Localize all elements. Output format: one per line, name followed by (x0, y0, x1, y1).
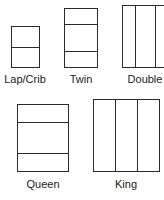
divider-line (155, 6, 156, 67)
queen-label: Queen (26, 178, 59, 190)
queen-diagram (17, 104, 69, 172)
lap-crib-label: Lap/Crib (4, 73, 46, 85)
twin-label: Twin (70, 73, 93, 85)
double-label: Double (128, 73, 163, 85)
divider-line (12, 47, 39, 48)
divider-line (18, 122, 68, 123)
divider-line (65, 24, 97, 25)
double-diagram (122, 5, 164, 68)
king-diagram (93, 99, 160, 172)
twin-diagram (64, 8, 98, 68)
king-label: King (115, 178, 137, 190)
divider-line (18, 153, 68, 154)
divider-line (137, 100, 138, 171)
divider-line (115, 100, 116, 171)
lap-crib-diagram (11, 26, 40, 68)
divider-line (135, 6, 136, 67)
divider-line (65, 51, 97, 52)
